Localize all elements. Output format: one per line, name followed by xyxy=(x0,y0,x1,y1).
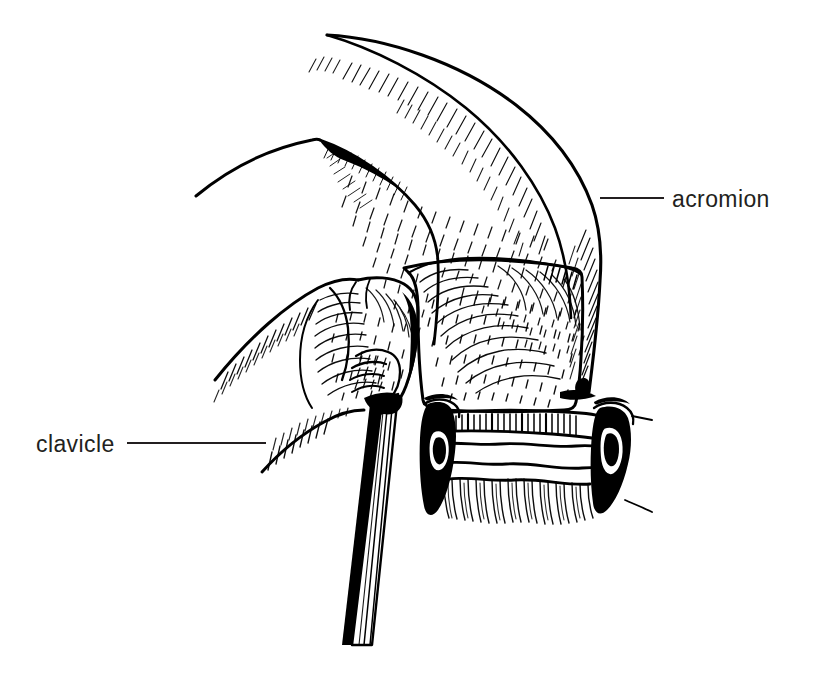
anatomy-figure: acromion clavicle xyxy=(0,0,813,673)
figure-background xyxy=(0,0,813,673)
clavicle-label: clavicle xyxy=(36,431,115,457)
illustration-canvas: acromion clavicle xyxy=(0,0,813,673)
acromion-label: acromion xyxy=(672,186,770,212)
